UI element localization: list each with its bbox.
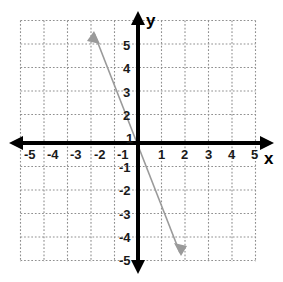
coordinate-plane-graph: -5 -4 -3 -2 -1 1 2 3 4 5 5 4 3 2 1 -1 -2… — [0, 0, 283, 282]
x-tick-label--2: -2 — [94, 148, 106, 161]
x-axis-label: x — [264, 150, 273, 167]
y-tick-label-3: 3 — [123, 86, 130, 99]
y-tick-label-4: 4 — [123, 62, 130, 75]
x-tick-label-5: 5 — [251, 148, 258, 161]
y-tick-label--5: -5 — [119, 254, 131, 267]
x-tick-label--3: -3 — [70, 148, 82, 161]
y-tick-label-5: 5 — [123, 39, 130, 52]
x-tick-label--4: -4 — [47, 148, 59, 161]
y-tick-label-2: 2 — [123, 109, 130, 122]
x-tick-label--5: -5 — [24, 148, 36, 161]
y-tick-label--4: -4 — [119, 231, 131, 244]
graph-canvas — [0, 0, 283, 282]
y-tick-label--3: -3 — [119, 208, 131, 221]
y-axis-label: y — [146, 12, 155, 29]
x-tick-label-2: 2 — [181, 148, 188, 161]
y-tick-label-1: 1 — [126, 132, 133, 145]
x-tick-label-4: 4 — [228, 148, 235, 161]
y-tick-label--2: -2 — [119, 184, 131, 197]
x-tick-label-3: 3 — [205, 148, 212, 161]
x-tick-label-1: 1 — [158, 148, 165, 161]
y-tick-label--1: -1 — [119, 161, 131, 174]
